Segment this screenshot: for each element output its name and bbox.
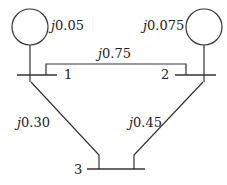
generator-1-circle-icon xyxy=(12,9,48,45)
generator-1 xyxy=(12,9,48,82)
generator-2-reactance: j0.075 xyxy=(140,18,184,33)
line-2-3-reactance: j0.45 xyxy=(126,115,162,130)
bus-1-label: 1 xyxy=(64,67,72,82)
generator-2 xyxy=(186,9,222,82)
bus-2-label: 2 xyxy=(161,67,169,82)
one-line-diagram: j0.05 j0.075 1 2 j0.75 j0.30 j0.45 3 xyxy=(0,0,227,185)
line-1-3-reactance: j0.30 xyxy=(14,115,50,130)
bus-3-label: 3 xyxy=(74,162,82,177)
generator-2-circle-icon xyxy=(186,9,222,45)
generator-1-reactance: j0.05 xyxy=(48,18,84,33)
line-1-2-reactance: j0.75 xyxy=(95,46,131,61)
